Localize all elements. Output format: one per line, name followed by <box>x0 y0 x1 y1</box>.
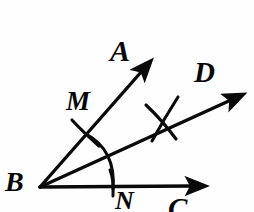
arc-mark-at-n <box>110 170 113 196</box>
point-label-c: C <box>168 194 187 212</box>
point-label-n: N <box>115 188 134 212</box>
ray-ba <box>40 71 142 187</box>
geometry-canvas <box>0 0 254 212</box>
point-label-b: B <box>5 168 24 196</box>
point-label-m: M <box>66 88 90 115</box>
point-label-d: D <box>194 58 215 87</box>
point-label-a: A <box>110 36 130 66</box>
geometry-figure: A D M B N C <box>0 0 254 212</box>
